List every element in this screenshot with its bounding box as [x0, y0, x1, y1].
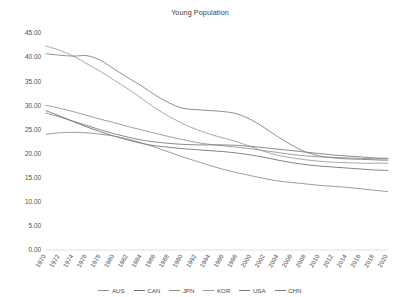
y-axis-tick-label: 15.00	[25, 174, 41, 181]
x-axis-tick-label: 2020	[376, 253, 389, 269]
x-axis-tick-label: 2014	[335, 253, 348, 269]
y-axis-tick-label: 25.00	[25, 126, 41, 133]
legend-item-aus[interactable]: AUS	[98, 288, 124, 294]
legend-swatch-icon	[275, 290, 286, 291]
x-axis-tick-label: 2012	[321, 253, 334, 269]
legend-label: USA	[253, 288, 266, 294]
y-axis-tick-label: 10.00	[25, 198, 41, 205]
legend-item-kor[interactable]: KOR	[203, 288, 230, 294]
x-axis-tick-label: 1996	[212, 253, 225, 269]
y-axis-tick-label: 20.00	[25, 150, 41, 157]
x-axis-tick-label: 1974	[61, 253, 74, 269]
series-line-kor	[46, 46, 388, 163]
x-axis-tick-label: 2002	[253, 253, 266, 269]
x-axis-tick-label: 1986	[143, 253, 156, 269]
series-line-usa	[46, 113, 388, 158]
x-axis-tick-label: 1988	[157, 253, 170, 269]
x-axis-tick-label: 1970	[34, 253, 47, 269]
legend-item-usa[interactable]: USA	[239, 288, 265, 294]
x-axis-tick-label: 1980	[102, 253, 115, 269]
chart-plot-area: 45.0040.0035.0030.0025.0020.0015.0010.00…	[0, 0, 400, 297]
chart-container: Young Population 45.0040.0035.0030.0025.…	[0, 0, 400, 297]
x-axis-tick-label: 1992	[184, 253, 197, 269]
y-axis-tick-label: 30.00	[25, 102, 41, 109]
legend-swatch-icon	[134, 290, 145, 291]
legend-label: AUS	[112, 288, 125, 294]
x-axis-tick-label: 1982	[116, 253, 129, 269]
legend-label: CAN	[147, 288, 160, 294]
x-axis-tick-label: 2010	[308, 253, 321, 269]
y-axis-tick-label: 35.00	[25, 78, 41, 85]
legend-item-chn[interactable]: CHN	[275, 288, 302, 294]
x-axis-tick-label: 2000	[239, 253, 252, 269]
y-axis-tick-label: 45.00	[25, 29, 41, 36]
x-axis-tick-label: 1998	[225, 253, 238, 269]
x-axis-tick-label: 1972	[48, 253, 61, 269]
x-axis-tick-label: 2006	[280, 253, 293, 269]
x-axis-tick-label: 1978	[89, 253, 102, 269]
y-axis-tick-label: 0.00	[29, 246, 42, 253]
legend-swatch-icon	[203, 290, 214, 291]
x-axis-tick-label: 1994	[198, 253, 211, 269]
x-axis-tick-label: 2004	[266, 253, 279, 269]
legend-swatch-icon	[169, 290, 180, 291]
legend-swatch-icon	[98, 290, 109, 291]
y-axis-tick-label: 5.00	[29, 222, 42, 229]
legend-label: CHN	[288, 288, 301, 294]
chart-legend: AUSCANJPNKORUSACHN	[0, 288, 400, 294]
legend-label: JPN	[183, 288, 195, 294]
x-axis-tick-label: 2008	[294, 253, 307, 269]
x-axis-tick-label: 2018	[362, 253, 375, 269]
series-line-can	[46, 111, 388, 171]
legend-item-jpn[interactable]: JPN	[169, 288, 194, 294]
y-axis-tick-label: 40.00	[25, 53, 41, 60]
x-axis-tick-label: 1990	[171, 253, 184, 269]
x-axis-tick-label: 2016	[349, 253, 362, 269]
legend-item-can[interactable]: CAN	[134, 288, 161, 294]
x-axis-tick-label: 1984	[130, 253, 143, 269]
legend-label: KOR	[217, 288, 230, 294]
x-axis-tick-label: 1976	[75, 253, 88, 269]
legend-swatch-icon	[239, 290, 250, 291]
